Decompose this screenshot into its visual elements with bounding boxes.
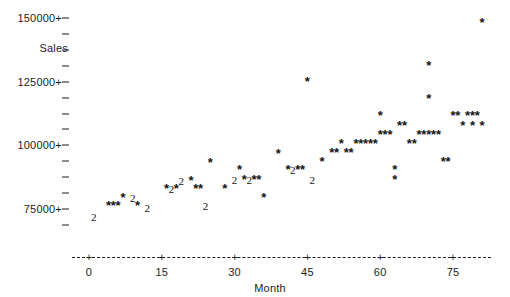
y-axis-tick-label: 75000+ xyxy=(0,204,62,215)
data-point-marker: * xyxy=(222,183,227,195)
x-axis-tick-mark: + xyxy=(86,252,92,263)
data-point-marker: * xyxy=(446,156,451,168)
x-axis-tick-mark: + xyxy=(231,252,237,263)
y-axis-tick-minor xyxy=(62,177,69,178)
data-point-marker: * xyxy=(378,110,383,122)
data-point-marker: * xyxy=(319,156,324,168)
data-point-marker: * xyxy=(480,120,485,132)
data-point-marker: * xyxy=(402,120,407,132)
x-axis-title: Month xyxy=(254,283,286,294)
data-point-marker: * xyxy=(392,174,397,186)
data-point-marker: * xyxy=(305,76,310,88)
data-point-marker: * xyxy=(208,157,213,169)
y-axis-tick-minor xyxy=(62,49,69,50)
y-axis-tick-minor xyxy=(62,97,69,98)
data-point-marker: * xyxy=(436,129,441,141)
x-axis-rule xyxy=(72,257,491,258)
y-axis-tick-major xyxy=(62,18,69,19)
data-point-marker: * xyxy=(276,148,281,160)
y-axis-title: Sales xyxy=(8,43,68,54)
y-axis-tick-major xyxy=(62,145,69,146)
y-axis-tick-minor xyxy=(62,113,69,114)
y-axis-tick-label: 100000+ xyxy=(0,140,62,151)
data-point-overlap-count: 2 xyxy=(203,200,209,212)
x-axis-tick-label: 60 xyxy=(374,267,387,278)
x-axis-tick-mark: + xyxy=(450,252,456,263)
x-axis-tick-label: 15 xyxy=(155,267,168,278)
data-point-marker: * xyxy=(470,120,475,132)
y-axis-tick-major xyxy=(62,81,69,82)
data-point-marker: * xyxy=(198,183,203,195)
data-point-marker: * xyxy=(120,192,125,204)
data-point-marker: * xyxy=(426,60,431,72)
data-point-marker: * xyxy=(387,129,392,141)
x-axis-tick-label: 30 xyxy=(228,267,241,278)
data-point-marker: * xyxy=(135,200,140,212)
x-axis-tick-mark: + xyxy=(377,252,383,263)
y-axis-tick-minor xyxy=(62,224,69,225)
x-axis-tick-mark: + xyxy=(159,252,165,263)
x-axis-tick-label: 45 xyxy=(301,267,314,278)
data-point-overlap-count: 2 xyxy=(310,174,316,186)
y-axis-tick-minor xyxy=(62,193,69,194)
data-point-marker: * xyxy=(261,192,266,204)
data-point-marker: * xyxy=(256,174,261,186)
y-axis-tick-major xyxy=(62,209,69,210)
y-axis-tick-minor xyxy=(62,65,69,66)
y-axis-tick-label: 125000+ xyxy=(0,76,62,87)
y-axis-tick-minor xyxy=(62,129,69,130)
x-axis-tick-label: 0 xyxy=(86,267,92,278)
data-point-marker: * xyxy=(426,93,431,105)
data-point-overlap-count: 2 xyxy=(178,175,184,187)
y-axis-tick-minor xyxy=(62,33,69,34)
x-axis-tick-label: 75 xyxy=(447,267,460,278)
x-axis-tick-mark: + xyxy=(304,252,310,263)
data-point-overlap-count: 2 xyxy=(91,211,97,223)
y-axis-tick-minor xyxy=(62,161,69,162)
data-point-overlap-count: 2 xyxy=(144,202,150,214)
y-axis-tick-label: 150000+ xyxy=(0,13,62,24)
data-point-marker: * xyxy=(300,164,305,176)
scatter-plot-figure: Sales 75000+100000+125000+150000+ ++++++… xyxy=(0,0,510,297)
data-point-marker: * xyxy=(480,17,485,29)
